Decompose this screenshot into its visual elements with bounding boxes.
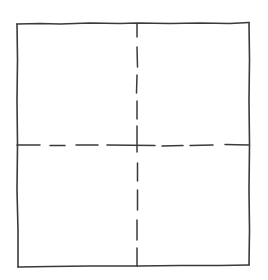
bottom-edge [18,265,249,267]
horizontal-dashed-divider [17,145,249,147]
top-edge [17,23,249,25]
right-edge [249,23,250,266]
quadrant-diagram [0,0,268,280]
